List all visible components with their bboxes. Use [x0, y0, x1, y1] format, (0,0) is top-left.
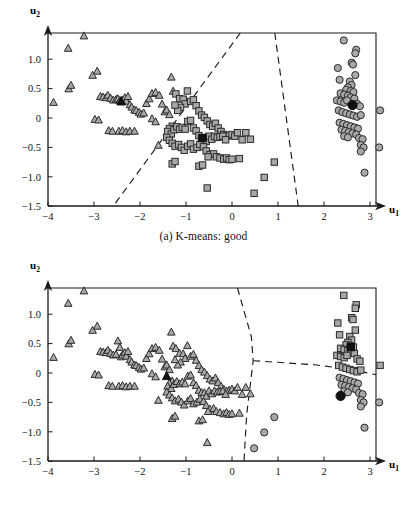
centroid-marker [348, 101, 357, 110]
cluster-1-triangles [50, 32, 177, 148]
data-point-triangle [155, 141, 163, 148]
data-point-triangle [168, 73, 176, 80]
data-point-circle [357, 148, 364, 155]
data-point-circle [271, 414, 278, 421]
y-tick-label: 1.0 [28, 309, 41, 320]
x-tick-label: 0 [229, 466, 234, 477]
data-point-circle [352, 50, 359, 57]
data-point-square [251, 190, 257, 196]
data-point-triangle [50, 353, 58, 360]
scatter-plot-b: −4−3−2−101231.00.50−0.5−1.0−1.5 u2 u1 [0, 255, 407, 511]
data-point-circle [376, 144, 383, 151]
y-axis-label-b: u2 [30, 259, 40, 274]
data-point-circle [336, 76, 343, 83]
cluster-3-circles [251, 374, 383, 452]
data-point-circle [334, 64, 341, 71]
data-point-square [341, 292, 347, 298]
data-point-circle [377, 107, 384, 114]
data-point-triangle [155, 396, 163, 403]
x-tick-label: 1 [275, 466, 280, 477]
data-point-circle [361, 424, 368, 431]
data-point-triangle [184, 342, 192, 349]
y-tick-label: −0.5 [22, 397, 41, 408]
data-point-triangle [93, 67, 101, 74]
data-point-square [247, 136, 253, 142]
panel-kmeans-bad: −4−3−2−101231.00.50−0.5−1.0−1.5 u2 u1 (b… [0, 255, 407, 511]
boundary-vertical [238, 288, 254, 461]
data-point-circle [251, 445, 258, 452]
x-tick-label: −2 [134, 211, 145, 222]
y-tick-label: 0 [36, 368, 41, 379]
data-point-circle [357, 403, 364, 410]
data-point-square [350, 316, 356, 322]
scatter-plot-a: −4−3−2−101231.00.50−0.5−1.0−1.5 u2 u1 [0, 0, 407, 256]
data-point-triangle [238, 390, 246, 397]
kmeans-figure: −4−3−2−101231.00.50−0.5−1.0−1.5 u2 u1 (a… [0, 0, 407, 511]
data-point-triangle [114, 337, 122, 344]
x-tick-label: 3 [367, 211, 372, 222]
x-tick-label: 2 [321, 466, 326, 477]
x-tick-label: −4 [42, 211, 54, 222]
data-point-triangle [116, 343, 124, 350]
x-tick-label: 2 [321, 211, 326, 222]
data-points-b [50, 287, 384, 452]
boundary-left [113, 33, 240, 206]
data-point-triangle [203, 439, 211, 446]
data-point-square [336, 332, 342, 338]
data-point-square [377, 362, 383, 368]
data-point-circle [349, 61, 356, 68]
x-tick-label: −2 [134, 466, 145, 477]
data-point-triangle [158, 355, 166, 362]
data-point-circle [376, 399, 383, 406]
y-tick-label: 0.5 [28, 83, 41, 94]
data-point-triangle [64, 44, 72, 51]
data-point-circle [361, 169, 368, 176]
data-point-square [352, 305, 358, 311]
data-point-square [239, 137, 245, 143]
data-point-triangle [93, 322, 101, 329]
data-point-square [205, 154, 211, 160]
y-axis-label-a: u2 [30, 4, 40, 19]
x-tick-label: 1 [275, 211, 280, 222]
x-tick-label: −4 [42, 466, 54, 477]
y-tick-label: −0.5 [22, 142, 41, 153]
data-point-triangle [158, 100, 166, 107]
y-tick-label: −1.5 [22, 201, 41, 212]
data-point-circle [340, 37, 347, 44]
y-tick-label: 0 [36, 113, 41, 124]
data-point-square [261, 174, 267, 180]
data-point-square [271, 159, 277, 165]
x-tick-label: −1 [180, 466, 191, 477]
data-point-triangle [236, 409, 244, 416]
x-tick-label: 3 [367, 466, 372, 477]
data-point-circle [357, 112, 364, 119]
data-point-square [234, 130, 240, 136]
data-point-square [344, 352, 350, 358]
data-point-square [222, 137, 228, 143]
x-axis-label-a: u1 [389, 203, 399, 218]
data-point-triangle [168, 328, 176, 335]
data-point-square [358, 367, 364, 373]
data-point-square [352, 327, 358, 333]
x-tick-label: −3 [88, 466, 99, 477]
data-point-triangle [242, 383, 250, 390]
data-point-circle [344, 134, 351, 141]
data-point-square [182, 126, 188, 132]
panel-caption-a: (a) K-means: good [0, 230, 407, 242]
data-point-circle [352, 72, 359, 79]
data-point-square [335, 320, 341, 326]
data-point-square [172, 102, 178, 108]
centroid-marker [199, 134, 206, 141]
cluster-1-triangles [50, 287, 255, 446]
y-tick-label: −1.5 [22, 456, 41, 467]
data-point-square [204, 185, 210, 191]
data-point-square [199, 162, 205, 168]
y-tick-label: −1.0 [22, 427, 41, 438]
x-tick-label: 0 [229, 211, 234, 222]
y-tick-label: −1.0 [22, 172, 41, 183]
centroid-marker [336, 391, 345, 400]
data-points-a [50, 32, 384, 197]
data-point-square [243, 130, 249, 136]
x-tick-label: −3 [88, 211, 99, 222]
data-point-square [229, 156, 235, 162]
